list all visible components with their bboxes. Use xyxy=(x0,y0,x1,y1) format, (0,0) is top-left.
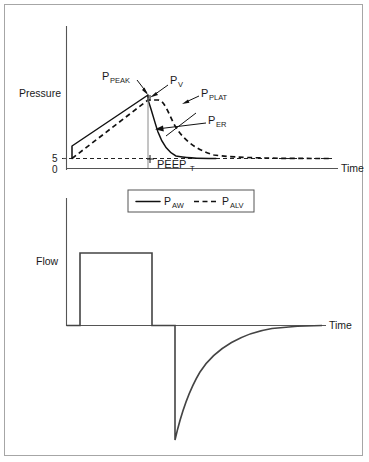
legend-palv-sub: ALV xyxy=(230,201,244,210)
flow-curve xyxy=(67,253,323,440)
legend-paw-base: P xyxy=(164,195,171,207)
p-peak-base: P xyxy=(102,70,109,82)
pressure-legend: P AW P ALV xyxy=(128,190,254,212)
waveform-figure: Pressure Time 5 0 P PEAK P V P PLAT P xyxy=(0,0,369,462)
flow-time-axis-label: Time xyxy=(329,319,352,331)
p-plat-base: P xyxy=(201,87,208,99)
flow-axis-label: Flow xyxy=(36,255,59,267)
paw-curve xyxy=(72,95,216,159)
p-v-sub: V xyxy=(178,80,183,89)
annotation-peep-t: PEEP T xyxy=(157,158,195,173)
annotation-p-peak: P PEAK xyxy=(102,70,130,85)
ytick-label-0: 0 xyxy=(52,164,58,175)
ppeak-arrowhead xyxy=(142,88,148,96)
pressure-axis-label: Pressure xyxy=(19,87,61,99)
figure-container: Pressure Time 5 0 P PEAK P V P PLAT P xyxy=(0,0,369,462)
legend-palv-base: P xyxy=(222,195,229,207)
ytick-label-5: 5 xyxy=(52,153,58,164)
flow-chart: Flow Time xyxy=(36,198,352,440)
pplat-arrowhead xyxy=(182,100,190,105)
p-plat-sub: PLAT xyxy=(209,93,228,102)
peep-t-sub: T xyxy=(190,164,195,173)
annotation-p-plat: P PLAT xyxy=(201,87,228,102)
per-leader xyxy=(161,123,206,129)
annotation-p-er: P ER xyxy=(208,114,227,129)
pressure-chart: Pressure Time 5 0 P PEAK P V P PLAT P xyxy=(19,26,364,175)
p-v-base: P xyxy=(170,74,177,86)
p-er-sub: ER xyxy=(216,120,227,129)
p-er-base: P xyxy=(208,114,215,126)
annotation-p-v: P V xyxy=(170,74,183,89)
palv-curve xyxy=(72,100,330,159)
peep-t-base: PEEP xyxy=(157,158,186,170)
legend-paw-sub: AW xyxy=(172,201,185,210)
pressure-time-axis-label: Time xyxy=(341,162,364,174)
p-peak-sub: PEAK xyxy=(110,76,130,85)
